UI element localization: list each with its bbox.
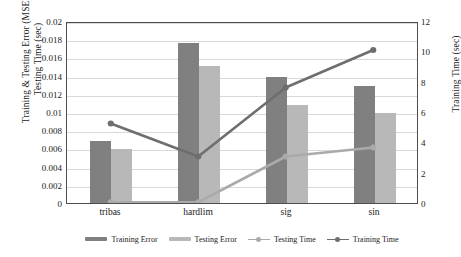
y-axis-label-right: Training Time (sec): [451, 0, 461, 149]
legend-label-testing-error: Testing Error: [195, 235, 237, 244]
chart-container: Training & Testing Error (MSE), Testing …: [0, 0, 461, 257]
line-series-group: [67, 23, 417, 203]
legend-item-training-time[interactable]: Training Time: [327, 235, 399, 244]
legend-swatch-training-time: [327, 236, 349, 243]
legend-swatch-testing-time: [248, 236, 270, 243]
y-tick-label-left: 0.016: [42, 53, 62, 63]
y-tick-label-left: 0.006: [42, 144, 62, 154]
legend-item-testing-error[interactable]: Testing Error: [169, 235, 237, 244]
legend-swatch-testing-error: [169, 237, 191, 241]
legend-label-training-error: Training Error: [111, 235, 157, 244]
marker-training-time-sig: [283, 84, 289, 90]
legend-marker-testing-time: [256, 237, 261, 242]
x-tick-label-sin: sin: [368, 207, 379, 217]
y-tick-label-left: 0.01: [46, 108, 62, 118]
y-tick-label-left: 0: [58, 199, 63, 209]
marker-testing-time-sin: [370, 144, 376, 150]
line-testing-time: [111, 148, 374, 203]
y-tick-label-right: 6: [421, 108, 426, 118]
y-tick-label-right: 2: [421, 169, 426, 179]
y-tick-label-right: 4: [421, 138, 426, 148]
legend-item-testing-time[interactable]: Testing Time: [248, 235, 316, 244]
marker-testing-time-sig: [283, 153, 289, 159]
y-tick-label-left: 0.004: [42, 163, 62, 173]
y-tick-label-right: 0: [421, 199, 426, 209]
legend-label-training-time: Training Time: [353, 235, 399, 244]
y-tick-label-right: 12: [421, 17, 430, 27]
y-tick-label-left: 0.002: [42, 181, 62, 191]
x-tick-label-hardlim: hardlim: [183, 207, 213, 217]
y-tick-label-right: 8: [421, 78, 426, 88]
y-axis-label-left: Training & Testing Error (MSE), Testing …: [20, 0, 44, 154]
legend-label-testing-time: Testing Time: [274, 235, 316, 244]
y-tick-label-left: 0.014: [42, 72, 62, 82]
legend-item-training-error[interactable]: Training Error: [85, 235, 157, 244]
legend-swatch-training-error: [85, 237, 107, 241]
y-tick-label-left: 0.012: [42, 90, 62, 100]
y-tick-label-left: 0.008: [42, 126, 62, 136]
y-axis-label-left-line1: Training & Testing Error (MSE),: [20, 0, 32, 154]
x-tick-label-tribas: tribas: [99, 207, 120, 217]
marker-training-time-sin: [370, 47, 376, 53]
marker-training-time-tribas: [108, 120, 114, 126]
y-tick-label-left: 0.02: [46, 17, 62, 27]
legend-marker-training-time: [335, 237, 340, 242]
x-tick-label-sig: sig: [280, 207, 291, 217]
chart-legend: Training ErrorTesting ErrorTesting TimeT…: [66, 231, 418, 247]
marker-training-time-hardlim: [195, 153, 201, 159]
y-tick-label-right: 10: [421, 47, 430, 57]
y-tick-label-left: 0.018: [42, 35, 62, 45]
line-training-time: [111, 50, 374, 157]
x-axis-tick-labels: tribashardlimsigsin: [66, 207, 418, 223]
plot-area: [66, 22, 418, 204]
marker-testing-time-tribas: [108, 199, 114, 203]
